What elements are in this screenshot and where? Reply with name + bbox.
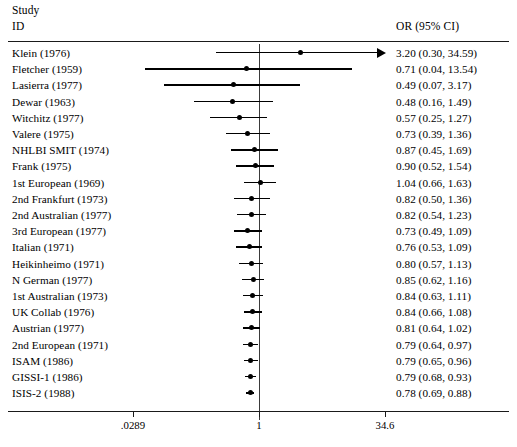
effect-estimate-marker <box>248 390 253 395</box>
effect-estimate-marker <box>258 180 263 185</box>
study-label: Frank (1975) <box>12 159 71 173</box>
or-ci-value: 0.78 (0.69, 0.88) <box>396 386 471 400</box>
study-label: Valere (1975) <box>12 127 74 141</box>
effect-estimate-marker <box>248 374 253 379</box>
effect-estimate-marker <box>298 50 303 55</box>
effect-estimate-marker <box>247 244 252 249</box>
or-ci-value: 0.79 (0.65, 0.96) <box>396 354 471 368</box>
effect-estimate-marker <box>249 212 254 217</box>
or-ci-value: 0.87 (0.45, 1.69) <box>396 143 471 157</box>
effect-estimate-marker <box>252 147 257 152</box>
column-header-study: Study <box>12 2 39 18</box>
effect-estimate-marker <box>244 66 249 71</box>
effect-estimate-marker <box>245 228 250 233</box>
study-label: N German (1977) <box>12 273 92 287</box>
forest-row: ISIS-2 (1988)0.78 (0.69, 0.88) <box>0 384 517 403</box>
or-ci-value: 0.85 (0.62, 1.16) <box>396 273 471 287</box>
or-ci-value: 0.48 (0.16, 1.49) <box>396 95 471 109</box>
study-label: 2nd Frankfurt (1973) <box>12 192 107 206</box>
column-header-or-ci: OR (95% CI) <box>396 18 459 34</box>
or-ci-value: 0.90 (0.52, 1.54) <box>396 159 471 173</box>
effect-estimate-marker <box>245 131 250 136</box>
or-ci-value: 0.81 (0.64, 1.02) <box>396 321 471 335</box>
study-label: 2nd Australian (1977) <box>12 208 111 222</box>
or-ci-value: 0.76 (0.53, 1.09) <box>396 240 471 254</box>
column-header-study-id: ID <box>12 18 24 34</box>
effect-estimate-marker <box>249 261 254 266</box>
effect-estimate-marker <box>237 115 242 120</box>
or-ci-value: 0.79 (0.68, 0.93) <box>396 370 471 384</box>
study-label: 2nd European (1971) <box>12 338 108 352</box>
or-ci-value: 0.84 (0.63, 1.11) <box>396 289 471 303</box>
study-label: 3rd European (1977) <box>12 224 106 238</box>
effect-estimate-marker <box>249 325 254 330</box>
header-rule <box>8 41 509 42</box>
forest-plot: Study ID OR (95% CI) Klein (1976)3.20 (0… <box>0 0 517 447</box>
study-label: GISSI-1 (1986) <box>12 370 83 384</box>
x-axis-tick-center <box>259 411 260 417</box>
or-ci-value: 0.49 (0.07, 3.17) <box>396 78 471 92</box>
study-label: Dewar (1963) <box>12 95 75 109</box>
x-axis-tick-left <box>133 411 134 417</box>
effect-estimate-marker <box>248 358 253 363</box>
study-label: NHLBI SMIT (1974) <box>12 143 109 157</box>
or-ci-value: 0.73 (0.39, 1.36) <box>396 127 471 141</box>
ci-right-arrow-icon <box>377 48 386 58</box>
x-axis-label-left: .0289 <box>121 419 145 432</box>
study-label: Lasierra (1977) <box>12 78 82 92</box>
or-ci-value: 0.82 (0.54, 1.23) <box>396 208 471 222</box>
forest-rows: Klein (1976)3.20 (0.30, 34.59)Fletcher (… <box>0 44 517 400</box>
or-ci-value: 0.84 (0.66, 1.08) <box>396 305 471 319</box>
or-ci-value: 0.80 (0.57, 1.13) <box>396 257 471 271</box>
study-label: 1st European (1969) <box>12 176 104 190</box>
effect-estimate-marker <box>248 342 253 347</box>
or-ci-value: 3.20 (0.30, 34.59) <box>396 46 477 60</box>
study-label: ISAM (1986) <box>12 354 73 368</box>
effect-estimate-marker <box>231 82 236 87</box>
or-ci-value: 1.04 (0.66, 1.63) <box>396 176 471 190</box>
effect-estimate-marker <box>230 99 235 104</box>
confidence-interval-bar <box>216 52 377 53</box>
study-label: Fletcher (1959) <box>12 62 82 76</box>
study-label: Klein (1976) <box>12 46 70 60</box>
study-label: ISIS-2 (1988) <box>12 386 75 400</box>
study-label: Witchitz (1977) <box>12 111 83 125</box>
study-label: Heikinheimo (1971) <box>12 257 104 271</box>
x-axis-label-center: 1 <box>256 419 261 432</box>
or-ci-value: 0.71 (0.04, 13.54) <box>396 62 477 76</box>
study-label: UK Collab (1976) <box>12 305 94 319</box>
effect-estimate-marker <box>253 163 258 168</box>
effect-estimate-marker <box>250 293 255 298</box>
effect-estimate-marker <box>251 277 256 282</box>
or-ci-value: 0.79 (0.64, 0.97) <box>396 338 471 352</box>
study-label: Austrian (1977) <box>12 321 84 335</box>
study-label: Italian (1971) <box>12 240 74 254</box>
or-ci-value: 0.57 (0.25, 1.27) <box>396 111 471 125</box>
x-axis-tick-right <box>385 411 386 417</box>
study-label: 1st Australian (1973) <box>12 289 108 303</box>
or-ci-value: 0.82 (0.50, 1.36) <box>396 192 471 206</box>
x-axis-label-right: 34.6 <box>376 419 395 432</box>
effect-estimate-marker <box>250 309 255 314</box>
or-ci-value: 0.73 (0.49, 1.09) <box>396 224 471 238</box>
effect-estimate-marker <box>249 196 254 201</box>
